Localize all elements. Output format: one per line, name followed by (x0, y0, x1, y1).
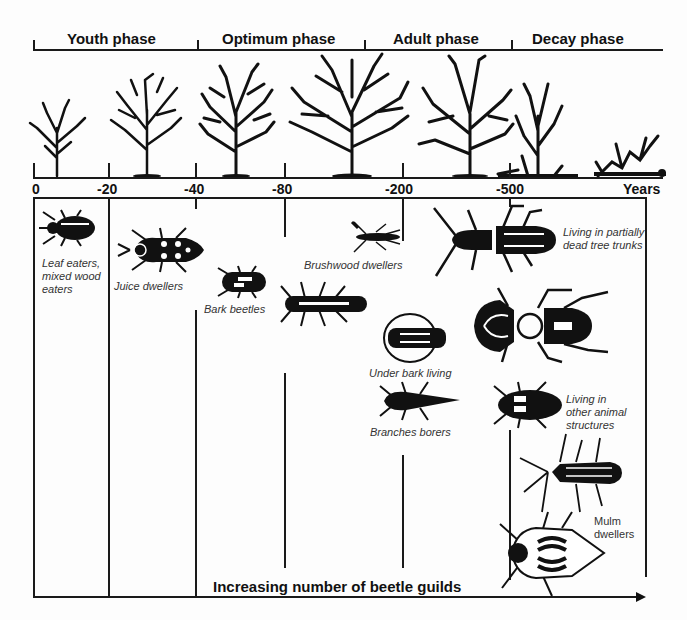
divider-200 (402, 455, 404, 568)
guild-panel-right (645, 197, 647, 577)
year-tick-200: -200 (385, 181, 413, 197)
phase-label-decay: Decay phase (532, 30, 624, 47)
divider-40-top (195, 197, 197, 209)
brushwood-beetle-icon (346, 218, 404, 256)
longhorn-beetle-icon (275, 278, 369, 330)
guild-label-bark-beetles: Bark beetles (204, 303, 265, 316)
juice-dweller-beetle-icon (116, 226, 208, 274)
year-tick-80: -80 (272, 181, 292, 197)
divider-80 (284, 373, 286, 568)
phase-label-youth: Youth phase (67, 30, 156, 47)
year-tick-0: 0 (32, 181, 40, 197)
guild-label-partially-dead-trunks: Living in partially dead tree trunks (563, 226, 645, 252)
years-unit-label: Years (623, 181, 660, 197)
rose-chafer-beetle-icon (492, 508, 608, 598)
divider-80-top (284, 197, 286, 237)
tick-40 (195, 163, 197, 178)
guild-label-branches-borers: Branches borers (370, 426, 451, 439)
beetle-guild-axis-label: Increasing number of beetle guilds (213, 578, 461, 595)
tick-500 (509, 163, 511, 178)
tick-20 (108, 163, 110, 178)
stag-beetle-partially-dead-trunk-icon (432, 200, 566, 280)
guild-panel-top (33, 197, 647, 199)
deadwood-icon (592, 132, 667, 178)
guild-label-juice-dwellers: Juice dwellers (114, 280, 183, 293)
guild-panel-left (33, 197, 35, 598)
phase-divider-1 (197, 40, 199, 50)
guild-label-brushwood-dwellers: Brushwood dwellers (304, 259, 402, 272)
mature-tree-icon (282, 52, 412, 178)
divider-20 (108, 197, 110, 597)
phase-divider-0 (33, 40, 35, 50)
guild-label-other-animal-structures: Living in other animal structures (566, 393, 628, 432)
year-tick-500: -500 (496, 181, 524, 197)
young-tree-icon (105, 70, 185, 178)
arrow-right-icon (636, 591, 648, 603)
year-tick-20: -20 (97, 181, 117, 197)
tick-0 (33, 163, 35, 178)
timeline-line (33, 177, 663, 179)
tick-200 (402, 163, 404, 178)
phase-label-optimum: Optimum phase (222, 30, 335, 47)
under-bark-beetle-icon (380, 310, 448, 366)
tick-80 (284, 163, 286, 178)
phase-divider-2 (364, 40, 366, 50)
leaf-eater-beetle-icon (37, 208, 99, 248)
phase-divider-3 (511, 40, 513, 50)
branch-borer-beetle-icon (376, 378, 466, 424)
mulm-beetle-icon (516, 432, 626, 514)
phase-header-line (33, 49, 663, 51)
optimum-tree-icon (196, 62, 276, 178)
year-tick-40: -40 (184, 181, 204, 197)
guild-label-leaf-eaters: Leaf eaters, mixed wood eaters (42, 257, 104, 296)
bark-beetle-icon (214, 264, 270, 300)
phase-label-adult: Adult phase (393, 30, 479, 47)
divider-40 (195, 310, 197, 597)
animal-structure-beetle-icon (490, 380, 566, 430)
stag-beetle-large-icon (468, 286, 618, 366)
dying-tree-icon (488, 76, 588, 178)
